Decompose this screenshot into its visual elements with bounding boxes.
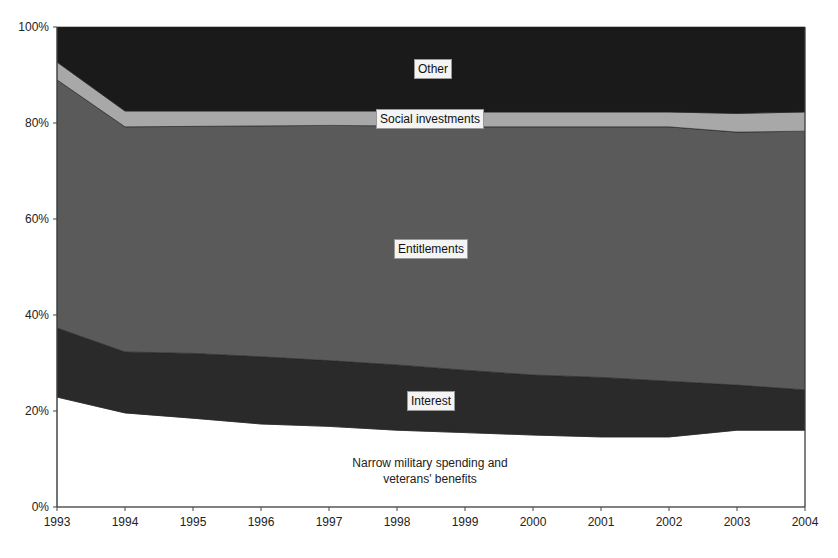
label-military-line2: veterans' benefits xyxy=(330,471,530,487)
x-tick-label: 2003 xyxy=(724,515,751,529)
label-social-investments: Social investments xyxy=(376,109,484,129)
x-tick-label: 2001 xyxy=(588,515,615,529)
x-tick-label: 1996 xyxy=(248,515,275,529)
label-other: Other xyxy=(414,59,452,79)
x-tick-label: 2004 xyxy=(792,515,819,529)
y-tick-label: 0% xyxy=(32,500,50,514)
x-tick-label: 1998 xyxy=(384,515,411,529)
y-tick-label: 60% xyxy=(25,212,49,226)
label-interest: Interest xyxy=(407,391,455,411)
label-military: Narrow military spending and veterans' b… xyxy=(330,455,530,487)
label-military-line1: Narrow military spending and xyxy=(330,455,530,471)
x-tick-label: 1997 xyxy=(316,515,343,529)
y-tick-label: 100% xyxy=(18,20,49,34)
label-entitlements: Entitlements xyxy=(394,239,468,259)
y-tick-label: 80% xyxy=(25,116,49,130)
y-tick-label: 20% xyxy=(25,404,49,418)
x-tick-label: 2002 xyxy=(656,515,683,529)
y-tick-label: 40% xyxy=(25,308,49,322)
x-tick-label: 1999 xyxy=(452,515,479,529)
x-tick-label: 1994 xyxy=(112,515,139,529)
x-tick-label: 1995 xyxy=(180,515,207,529)
x-tick-label: 2000 xyxy=(520,515,547,529)
x-tick-label: 1993 xyxy=(44,515,71,529)
plot-areas xyxy=(57,27,805,507)
